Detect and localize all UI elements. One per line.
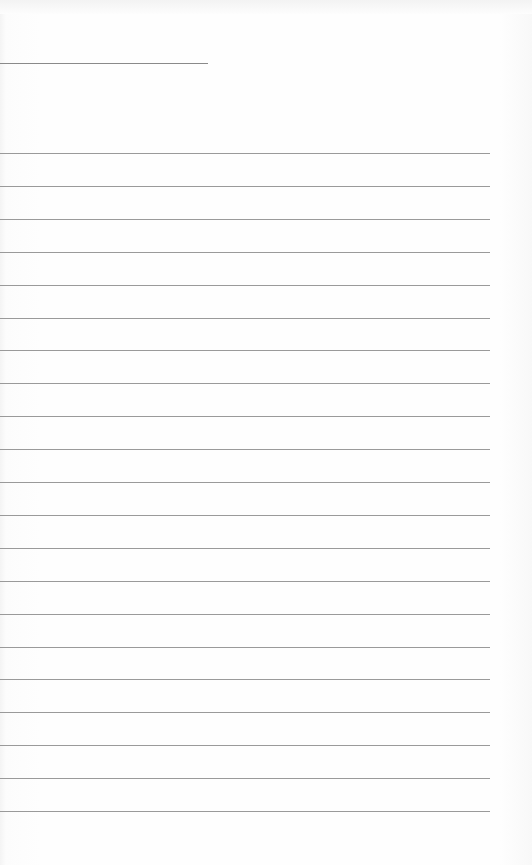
ruled-line: [0, 318, 490, 319]
ruled-line: [0, 614, 490, 615]
ruled-line: [0, 745, 490, 746]
ruled-line: [0, 285, 490, 286]
ruled-line: [0, 153, 490, 154]
ruled-line: [0, 581, 490, 582]
header-line: [0, 63, 208, 64]
ruled-line: [0, 383, 490, 384]
ruled-line: [0, 548, 490, 549]
ruled-line: [0, 252, 490, 253]
ruled-line: [0, 219, 490, 220]
ruled-line: [0, 416, 490, 417]
ruled-line: [0, 482, 490, 483]
ruled-line: [0, 811, 490, 812]
ruled-line: [0, 449, 490, 450]
ruled-line: [0, 778, 490, 779]
ruled-line: [0, 647, 490, 648]
ruled-line: [0, 350, 490, 351]
ruled-line: [0, 515, 490, 516]
top-edge-bleed-through: [0, 0, 532, 14]
ruled-line: [0, 712, 490, 713]
notepad-page: [0, 0, 532, 865]
ruled-line: [0, 186, 490, 187]
ruled-line: [0, 679, 490, 680]
